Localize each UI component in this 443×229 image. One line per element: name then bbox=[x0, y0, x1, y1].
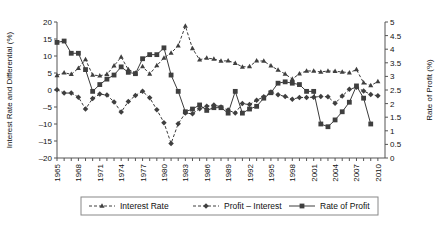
data-point-square bbox=[190, 107, 195, 112]
y-axis-left-tick-label: –20 bbox=[39, 154, 53, 163]
legend-label: Rate of Profit bbox=[320, 201, 370, 211]
data-point-square bbox=[261, 96, 266, 101]
y-axis-right-tick-label: 4 bbox=[390, 45, 395, 54]
legend-label: Profit – Interest bbox=[224, 201, 282, 211]
x-axis-tick-label: 1980 bbox=[160, 163, 169, 181]
y-axis-right-tick-label: 1 bbox=[390, 127, 395, 136]
data-point-square bbox=[154, 52, 159, 57]
x-axis-tick-label: 2007 bbox=[352, 163, 361, 181]
x-axis-tick-label: 1995 bbox=[267, 163, 276, 181]
data-point-square bbox=[112, 73, 117, 78]
data-point-square bbox=[347, 100, 352, 105]
data-point-square bbox=[361, 96, 366, 101]
x-axis-tick-label: 1989 bbox=[224, 163, 233, 181]
y-axis-right-tick-label: 0.5 bbox=[390, 140, 402, 149]
data-point-square bbox=[76, 51, 81, 56]
data-point-square bbox=[147, 52, 152, 57]
data-point-square bbox=[368, 122, 373, 127]
data-point-square bbox=[97, 82, 102, 87]
y-axis-left-title: Interest Rate and Differential (%) bbox=[5, 31, 14, 148]
data-point-square bbox=[311, 89, 316, 94]
x-axis-tick-label: 1977 bbox=[139, 163, 148, 181]
y-axis-right-tick-label: 2.5 bbox=[390, 86, 402, 95]
x-axis-tick-label: 1986 bbox=[203, 163, 212, 181]
data-point-square bbox=[283, 79, 288, 84]
y-axis-left-tick-label: –10 bbox=[39, 120, 53, 129]
data-point-square bbox=[254, 104, 259, 109]
legend-label: Interest Rate bbox=[120, 201, 169, 211]
y-axis-left-tick-label: 0 bbox=[48, 86, 53, 95]
y-axis-right-tick-label: 5 bbox=[390, 18, 395, 27]
data-point-square bbox=[211, 105, 216, 110]
data-point-square bbox=[219, 105, 224, 110]
data-point-square bbox=[197, 103, 202, 108]
x-axis-tick-label: 1992 bbox=[246, 163, 255, 181]
data-point-square bbox=[247, 107, 252, 112]
x-axis-tick-label: 1974 bbox=[117, 163, 126, 181]
chart-legend: Interest RateProfit – InterestRate of Pr… bbox=[81, 197, 378, 215]
data-point-square bbox=[90, 89, 95, 94]
y-axis-left-tick-label: 20 bbox=[43, 18, 52, 27]
data-point-square bbox=[169, 73, 174, 78]
data-point-square bbox=[233, 89, 238, 94]
data-point-square bbox=[226, 111, 231, 116]
data-point-square bbox=[290, 81, 295, 86]
data-point-square bbox=[69, 51, 74, 56]
x-axis-tick-label: 2004 bbox=[331, 163, 340, 181]
data-point-square bbox=[326, 124, 331, 129]
data-point-square bbox=[176, 89, 181, 94]
x-axis-tick-label: 1965 bbox=[53, 163, 62, 181]
y-axis-right-tick-label: 1.5 bbox=[390, 113, 402, 122]
data-point-square bbox=[62, 39, 67, 44]
data-point-square bbox=[240, 111, 245, 116]
y-axis-right-tick-label: 2 bbox=[390, 100, 395, 109]
plot-background bbox=[0, 0, 443, 229]
y-axis-left-tick-label: 5 bbox=[48, 69, 53, 78]
x-axis-tick-label: 1968 bbox=[74, 163, 83, 181]
data-point-square bbox=[162, 45, 167, 50]
y-axis-right-tick-label: 3 bbox=[390, 72, 395, 81]
y-axis-right-tick-label: 0 bbox=[390, 154, 395, 163]
x-axis-tick-label: 1971 bbox=[96, 163, 105, 181]
data-point-square bbox=[297, 82, 302, 87]
data-point-square bbox=[269, 90, 274, 95]
data-point-square bbox=[340, 109, 345, 114]
data-point-square bbox=[105, 77, 110, 82]
chart-canvas: –20–15–10–505101520 00.511.522.533.544.5… bbox=[0, 0, 443, 229]
x-axis-tick-label: 1998 bbox=[288, 163, 297, 181]
y-axis-left-tick-label: –5 bbox=[43, 103, 52, 112]
data-point-square bbox=[183, 109, 188, 114]
y-axis-right-tick-label: 4.5 bbox=[390, 32, 402, 41]
chart-figure: –20–15–10–505101520 00.511.522.533.544.5… bbox=[0, 0, 443, 229]
x-axis-tick-label: 1983 bbox=[181, 163, 190, 181]
y-axis-right-tick-label: 3.5 bbox=[390, 59, 402, 68]
data-point-square bbox=[55, 40, 60, 45]
data-point-square bbox=[133, 71, 138, 76]
data-point-square bbox=[318, 122, 323, 127]
data-point-square bbox=[119, 64, 124, 69]
y-axis-left-tick-label: –15 bbox=[39, 137, 53, 146]
data-point-square bbox=[83, 67, 88, 72]
data-point-square bbox=[354, 84, 359, 89]
x-axis-tick-label: 2010 bbox=[374, 163, 383, 181]
x-axis-tick-label: 2001 bbox=[310, 163, 319, 181]
y-axis-right-title: Rate of Profit (%) bbox=[425, 59, 434, 121]
data-point-square bbox=[204, 108, 209, 113]
data-point-square bbox=[126, 70, 131, 75]
data-point-square bbox=[276, 81, 281, 86]
data-point-square bbox=[304, 89, 309, 94]
data-point-square bbox=[333, 118, 338, 123]
data-point-square bbox=[140, 56, 145, 61]
legend-marker-square bbox=[300, 204, 305, 209]
y-axis-left-tick-label: 10 bbox=[43, 52, 52, 61]
y-axis-left-tick-label: 15 bbox=[43, 35, 52, 44]
